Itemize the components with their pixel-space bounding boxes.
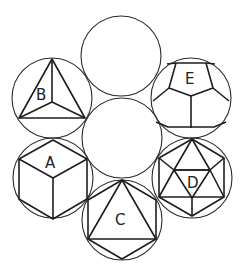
- solid-b-tetrahedron: B: [12, 58, 92, 138]
- sphere: [81, 16, 161, 96]
- label-a: A: [45, 154, 56, 172]
- solid-c-octahedron: C: [82, 180, 162, 260]
- label-d: D: [187, 174, 199, 192]
- solid-d-icosahedron: D: [152, 138, 232, 218]
- platonic-solids-diagram: B E A D: [0, 0, 246, 274]
- center-circle: [82, 98, 162, 178]
- solid-a-cube: A: [13, 138, 93, 219]
- label-e: E: [185, 70, 194, 88]
- solid-e-dodecahedron: E: [151, 58, 231, 138]
- label-b: B: [36, 86, 46, 104]
- label-c: C: [115, 211, 125, 229]
